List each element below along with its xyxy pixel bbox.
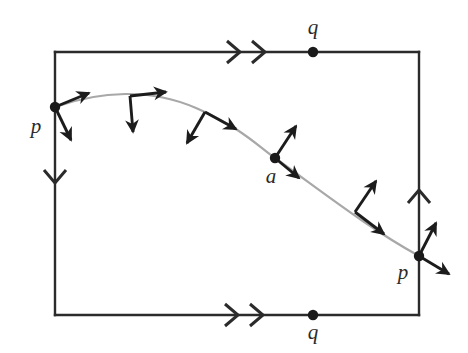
frame-at-a-normal-vector [275,126,296,158]
point-q-bottom-label: q [308,320,319,344]
moving-frame-layer [55,92,449,274]
frame-at-p-left-tangent-vector [55,93,89,107]
frame-at-a [275,126,299,178]
frame-at-p-right [419,223,449,274]
edge-identification-markers [44,41,430,326]
frame-apex-tangent-vector [130,92,166,96]
frame-descending-normal-vector [187,112,205,143]
geodesic-curve [55,94,419,256]
point-a-label: a [266,164,277,188]
point-p-right-label: p [396,260,409,284]
frame-apex-normal-vector [130,96,133,132]
point-q-bottom [308,310,318,320]
frame-descending-tangent-vector [205,112,236,129]
geometry-figure: ppqqa [0,0,468,353]
frame-lower-normal-vector [355,181,376,212]
frame-at-p-right-tangent-vector [419,256,449,274]
point-p-right [414,251,424,261]
frame-at-p-left-normal-vector [55,107,71,140]
point-a [270,153,280,163]
point-q-top [308,47,318,57]
marked-point-layer [50,47,424,320]
frame-at-p-left [55,93,89,140]
frame-descending [187,112,236,143]
point-p-left-label: p [29,114,42,138]
point-q-top-label: q [308,15,319,39]
frame-lower-tangent-vector [355,212,384,234]
point-p-left [50,102,60,112]
figure-canvas: ppqqa [0,0,468,353]
fundamental-square [55,52,419,315]
frame-at-p-right-normal-vector [419,223,436,256]
point-label-layer: ppqqa [29,15,409,344]
